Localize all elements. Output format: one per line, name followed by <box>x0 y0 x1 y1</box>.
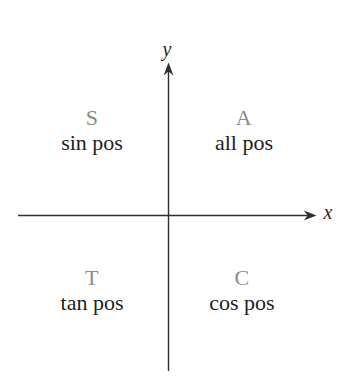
quadrant-2-label-group: S sin pos <box>30 105 154 155</box>
quadrant-2-letter: S <box>30 105 154 130</box>
x-axis-label: x <box>317 201 339 223</box>
quadrant-3-caption: tan pos <box>30 290 154 315</box>
quadrant-3-letter: T <box>30 265 154 290</box>
astc-quadrant-diagram: y x S sin pos A all pos T tan pos C cos … <box>0 0 352 383</box>
quadrant-2-caption: sin pos <box>30 130 154 155</box>
y-axis-label: y <box>156 38 178 60</box>
quadrant-1-caption: all pos <box>182 130 306 155</box>
quadrant-4-label-group: C cos pos <box>180 265 304 315</box>
quadrant-1-label-group: A all pos <box>182 105 306 155</box>
quadrant-3-label-group: T tan pos <box>30 265 154 315</box>
quadrant-4-letter: C <box>180 265 304 290</box>
quadrant-4-caption: cos pos <box>180 290 304 315</box>
quadrant-1-letter: A <box>182 105 306 130</box>
